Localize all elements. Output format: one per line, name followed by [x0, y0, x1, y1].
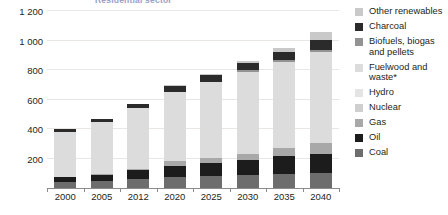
bar-segment[interactable] — [127, 108, 149, 168]
chart-figure: Residential sector Mtoe 2004006008001 00… — [0, 0, 448, 215]
bar-segment[interactable] — [310, 40, 332, 49]
bar-stack[interactable] — [127, 104, 149, 188]
legend-swatch-icon — [355, 38, 363, 46]
plot-area — [47, 11, 339, 188]
x-axis-tick-label: 2000 — [47, 191, 84, 202]
bar-segment[interactable] — [200, 163, 222, 177]
bar-segment[interactable] — [273, 148, 295, 157]
bar-segment[interactable] — [91, 122, 113, 174]
legend-swatch-icon — [355, 64, 363, 72]
legend-item-label: Coal — [369, 147, 388, 158]
legend-swatch-icon — [355, 8, 363, 16]
legend-item[interactable]: Nuclear — [355, 102, 448, 113]
legend-item[interactable]: Charcoal — [355, 21, 448, 32]
bar-segment[interactable] — [200, 82, 222, 157]
x-axis-tick-mark — [339, 188, 340, 192]
bar-segment[interactable] — [273, 52, 295, 60]
legend-swatch-icon — [355, 134, 363, 142]
legend-item-label: Gas — [369, 117, 386, 128]
x-axis-tick-label: 2012 — [120, 191, 157, 202]
legend-swatch-icon — [355, 119, 363, 127]
bar-segment[interactable] — [127, 170, 149, 179]
y-axis-tick-label: 800 — [27, 65, 43, 76]
bar-stack[interactable] — [91, 119, 113, 188]
bar-segment[interactable] — [310, 154, 332, 173]
bar-segment[interactable] — [237, 72, 259, 154]
legend-item[interactable]: Fuelwood and waste* — [355, 62, 448, 83]
y-axis-tick-label: 1 000 — [19, 35, 43, 46]
chart-legend: Other renewablesCharcoalBiofuels, biogas… — [355, 6, 448, 162]
legend-item[interactable]: Other renewables — [355, 6, 448, 17]
bar-segment[interactable] — [164, 92, 186, 161]
legend-swatch-icon — [355, 89, 363, 97]
legend-item[interactable]: Gas — [355, 117, 448, 128]
x-axis-tick-label: 2020 — [157, 191, 194, 202]
bar-segment[interactable] — [164, 166, 186, 178]
bar-segment[interactable] — [310, 52, 332, 143]
bar-stack[interactable] — [200, 74, 222, 188]
y-axis-tick-label: 200 — [27, 153, 43, 164]
x-axis-tick-label: 2005 — [84, 191, 121, 202]
x-axis-tick-label: 2030 — [230, 191, 267, 202]
bar-segment[interactable] — [164, 177, 186, 188]
x-axis-tick-label: 2040 — [303, 191, 340, 202]
bar-segment[interactable] — [310, 32, 332, 41]
bar-segment[interactable] — [273, 156, 295, 173]
legend-swatch-icon — [355, 149, 363, 157]
legend-item[interactable]: Coal — [355, 147, 448, 158]
legend-swatch-icon — [355, 104, 363, 112]
bar-segment[interactable] — [200, 176, 222, 188]
legend-item-label: Biofuels, biogas and pellets — [369, 36, 435, 57]
bar-stack[interactable] — [237, 61, 259, 188]
bar-stack[interactable] — [310, 32, 332, 188]
bar-segment[interactable] — [310, 173, 332, 188]
bar-segment[interactable] — [237, 160, 259, 175]
legend-item-label: Hydro — [369, 87, 394, 98]
bar-segment[interactable] — [273, 62, 295, 148]
bar-stack[interactable] — [164, 85, 186, 188]
y-axis-tick-label: 400 — [27, 124, 43, 135]
bar-segment[interactable] — [237, 175, 259, 188]
legend-item-label: Oil — [369, 132, 380, 143]
y-axis-ticks: 2004006008001 0001 200 — [0, 11, 43, 188]
bar-segment[interactable] — [310, 143, 332, 153]
legend-item-label: Charcoal — [369, 21, 406, 32]
y-axis-tick-label: 1 200 — [19, 6, 43, 17]
bar-segment[interactable] — [237, 63, 259, 70]
bar-segment[interactable] — [91, 181, 113, 188]
legend-item-label: Nuclear — [369, 102, 401, 113]
gridline — [47, 40, 339, 41]
legend-swatch-icon — [355, 23, 363, 31]
legend-item-label: Other renewables — [369, 6, 442, 17]
y-axis-tick-label: 600 — [27, 94, 43, 105]
legend-item[interactable]: Hydro — [355, 87, 448, 98]
legend-item[interactable]: Oil — [355, 132, 448, 143]
x-axis-tick-label: 2025 — [193, 191, 230, 202]
chart-title: Residential sector — [95, 0, 265, 3]
x-axis-tick-label: 2035 — [266, 191, 303, 202]
bar-stack[interactable] — [273, 48, 295, 188]
gridline — [47, 10, 339, 11]
bar-segment[interactable] — [273, 174, 295, 188]
legend-item-label: Fuelwood and waste* — [369, 62, 427, 83]
legend-item[interactable]: Biofuels, biogas and pellets — [355, 36, 448, 57]
bar-segment[interactable] — [54, 132, 76, 176]
bar-stack[interactable] — [54, 129, 76, 188]
bar-segment[interactable] — [127, 179, 149, 188]
